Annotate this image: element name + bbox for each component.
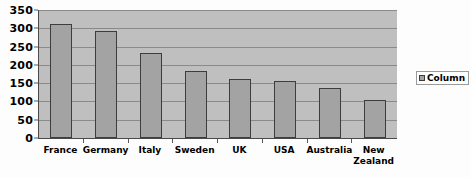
y-tick-mark xyxy=(34,83,38,84)
bar-slot xyxy=(39,10,84,138)
y-tick-label: 250 xyxy=(9,41,33,52)
bar[interactable] xyxy=(95,31,117,138)
bars-layer xyxy=(39,10,397,138)
y-tick-label: 100 xyxy=(9,96,33,107)
bar[interactable] xyxy=(319,88,341,138)
plot-area xyxy=(38,10,397,139)
bar[interactable] xyxy=(140,53,162,138)
x-tick-mark xyxy=(262,139,263,143)
bar[interactable] xyxy=(50,24,72,138)
bar[interactable] xyxy=(185,71,207,138)
x-tick-mark xyxy=(128,139,129,143)
x-tick-label: UK xyxy=(217,145,262,156)
y-tick-label: 300 xyxy=(9,23,33,34)
y-tick-label: 350 xyxy=(9,5,33,16)
bar-slot xyxy=(173,10,218,138)
x-tick-label: Sweden xyxy=(172,145,217,156)
x-tick-label: USA xyxy=(262,145,307,156)
x-tick-mark xyxy=(307,139,308,143)
x-axis: FranceGermanyItalySwedenUKUSAAustraliaNe… xyxy=(38,145,396,175)
bar-slot xyxy=(308,10,353,138)
x-tick-label: Italy xyxy=(128,145,173,156)
bar[interactable] xyxy=(274,81,296,138)
y-tick-label: 50 xyxy=(17,114,33,125)
y-tick-mark xyxy=(34,46,38,47)
bar[interactable] xyxy=(229,79,251,138)
y-tick-mark xyxy=(34,101,38,102)
x-tick-label: France xyxy=(38,145,83,156)
y-tick-label: 150 xyxy=(9,78,33,89)
y-tick-mark xyxy=(34,10,38,11)
bar-slot xyxy=(129,10,174,138)
x-tick-mark xyxy=(172,139,173,143)
legend[interactable]: Column xyxy=(416,71,469,85)
legend-swatch-icon xyxy=(419,75,425,81)
bar[interactable] xyxy=(364,100,386,138)
y-tick-label: 0 xyxy=(25,133,33,144)
y-tick-mark xyxy=(34,28,38,29)
y-tick-label: 200 xyxy=(9,59,33,70)
y-tick-mark xyxy=(34,119,38,120)
x-tick-label: Germany xyxy=(83,145,128,156)
bar-slot xyxy=(84,10,129,138)
y-axis: 050100150200250300350 xyxy=(0,10,33,138)
bar-slot xyxy=(352,10,397,138)
legend-label: Column xyxy=(427,73,465,83)
y-tick-mark xyxy=(34,138,38,139)
x-tick-label: Australia xyxy=(307,145,352,156)
x-tick-mark xyxy=(217,139,218,143)
y-tick-mark xyxy=(34,64,38,65)
x-tick-mark xyxy=(83,139,84,143)
bar-slot xyxy=(218,10,263,138)
bar-chart: 050100150200250300350 FranceGermanyItaly… xyxy=(0,0,471,177)
bar-slot xyxy=(263,10,308,138)
x-tick-label: New Zealand xyxy=(351,145,396,167)
x-tick-mark xyxy=(351,139,352,143)
